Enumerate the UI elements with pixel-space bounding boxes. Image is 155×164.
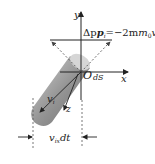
width-label: vixdt [49, 132, 71, 144]
area-label: dS [93, 73, 104, 82]
momentum-equation: Δppi=−2mm0vixi [83, 27, 155, 39]
particle-cylinder [31, 50, 93, 126]
svg-text:Δppi=−2mm0vixi: Δppi=−2mm0vixi [83, 27, 155, 39]
z-axis-label: z [65, 104, 71, 114]
origin-label: O [83, 69, 92, 82]
y-axis-label: y [73, 9, 80, 20]
momentum-diagram: y x z O dS Δppi=−2mm0vixi vi vixdt [0, 0, 155, 164]
x-axis-label: x [121, 73, 127, 84]
